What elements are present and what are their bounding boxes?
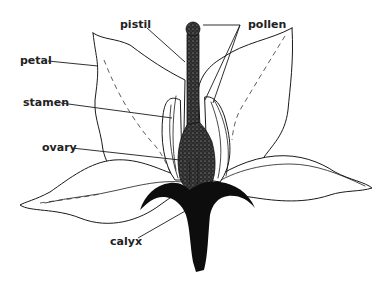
label-petal: petal (20, 54, 52, 67)
flower-diagram: pistil pollen petal stamen ovary calyx (0, 0, 387, 290)
label-pollen: pollen (248, 18, 286, 31)
stigma-pollen (186, 22, 200, 36)
label-calyx: calyx (110, 235, 142, 248)
label-ovary: ovary (42, 141, 77, 154)
pistil-leader (147, 28, 185, 62)
label-stamen: stamen (23, 96, 69, 109)
petal-leader (48, 61, 98, 66)
label-pistil: pistil (120, 18, 151, 31)
